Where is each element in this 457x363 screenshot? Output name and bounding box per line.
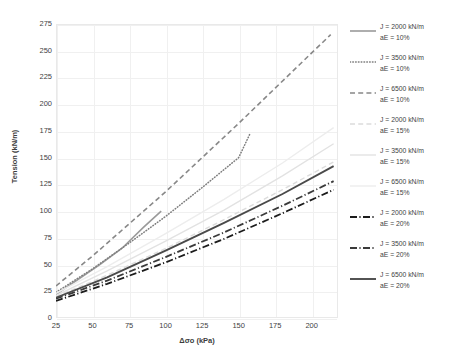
legend-label-line1: J = 2000 kN/m xyxy=(380,22,455,33)
legend-label-line2: aE = 15% xyxy=(380,126,455,137)
x-axis-ticks: 255075100125150175200 xyxy=(0,322,457,336)
x-tick-label: 125 xyxy=(182,322,222,330)
legend-swatch-icon xyxy=(350,182,376,190)
legend-swatch-icon xyxy=(350,213,376,221)
legend-label: J = 3500 kN/maE = 15% xyxy=(380,146,455,167)
y-tick-label: 75 xyxy=(4,234,52,242)
legend-label-line1: J = 6500 kN/m xyxy=(380,84,455,95)
series-line-1 xyxy=(56,133,250,292)
legend-swatch-icon xyxy=(350,89,376,97)
legend-label-line1: J = 2000 kN/m xyxy=(380,115,455,126)
legend-swatch-icon xyxy=(350,275,376,283)
series-line-3 xyxy=(56,162,334,297)
legend-swatch-icon xyxy=(350,58,376,66)
legend-label-line1: J = 6500 kN/m xyxy=(380,177,455,188)
legend-item-2[interactable]: J = 6500 kN/maE = 10% xyxy=(350,84,455,114)
legend-label: J = 6500 kN/maE = 20% xyxy=(380,270,455,291)
legend-label-line2: aE = 10% xyxy=(380,95,455,106)
y-axis-title: Tension (kN/m) xyxy=(10,97,19,217)
legend-item-6[interactable]: J = 2000 kN/maE = 20% xyxy=(350,208,455,238)
series-line-2 xyxy=(56,35,331,286)
x-tick-label: 175 xyxy=(255,322,295,330)
legend-label-line2: aE = 20% xyxy=(380,281,455,292)
legend-label: J = 3500 kN/maE = 20% xyxy=(380,239,455,260)
legend-label: J = 2000 kN/maE = 10% xyxy=(380,22,455,43)
legend-label-line1: J = 2000 kN/m xyxy=(380,208,455,219)
legend-label-line1: J = 3500 kN/m xyxy=(380,53,455,64)
x-axis-title: Δσo (kPa) xyxy=(56,336,338,345)
legend-item-4[interactable]: J = 3500 kN/maE = 15% xyxy=(350,146,455,176)
x-tick-label: 150 xyxy=(219,322,259,330)
legend-item-3[interactable]: J = 2000 kN/maE = 15% xyxy=(350,115,455,145)
chart-container: 0255075100125150175200225250275 25507510… xyxy=(0,0,457,363)
x-tick-label: 50 xyxy=(73,322,113,330)
legend-label-line2: aE = 10% xyxy=(380,33,455,44)
series-line-8 xyxy=(56,166,334,298)
legend-item-0[interactable]: J = 2000 kN/maE = 10% xyxy=(350,22,455,52)
legend-label-line1: J = 3500 kN/m xyxy=(380,146,455,157)
legend-label-line2: aE = 10% xyxy=(380,64,455,75)
legend-label-line2: aE = 20% xyxy=(380,250,455,261)
legend-item-5[interactable]: J = 6500 kN/maE = 15% xyxy=(350,177,455,207)
legend-label: J = 2000 kN/maE = 20% xyxy=(380,208,455,229)
chart-legend: J = 2000 kN/maE = 10%J = 3500 kN/maE = 1… xyxy=(350,22,455,301)
x-tick-label: 25 xyxy=(36,322,76,330)
legend-swatch-icon xyxy=(350,27,376,35)
legend-label-line1: J = 3500 kN/m xyxy=(380,239,455,250)
legend-label: J = 6500 kN/maE = 10% xyxy=(380,84,455,105)
x-tick-label: 200 xyxy=(292,322,332,330)
legend-item-8[interactable]: J = 6500 kN/maE = 20% xyxy=(350,270,455,300)
series-line-5 xyxy=(56,128,334,294)
y-tick-label: 250 xyxy=(4,47,52,55)
y-tick-label: 25 xyxy=(4,287,52,295)
legend-item-1[interactable]: J = 3500 kN/maE = 10% xyxy=(350,53,455,83)
gridline-horizontal xyxy=(57,319,337,320)
x-tick-label: 100 xyxy=(146,322,186,330)
x-tick-label: 75 xyxy=(109,322,149,330)
legend-swatch-icon xyxy=(350,151,376,159)
legend-label-line2: aE = 20% xyxy=(380,219,455,230)
legend-label: J = 3500 kN/maE = 10% xyxy=(380,53,455,74)
legend-item-7[interactable]: J = 3500 kN/maE = 20% xyxy=(350,239,455,269)
y-tick-label: 225 xyxy=(4,73,52,81)
series-line-4 xyxy=(56,144,334,296)
legend-label: J = 2000 kN/maE = 15% xyxy=(380,115,455,136)
series-lines xyxy=(56,24,338,318)
legend-label-line2: aE = 15% xyxy=(380,157,455,168)
legend-label: J = 6500 kN/maE = 15% xyxy=(380,177,455,198)
y-tick-label: 275 xyxy=(4,20,52,28)
legend-label-line2: aE = 15% xyxy=(380,188,455,199)
legend-swatch-icon xyxy=(350,244,376,252)
y-axis-ticks: 0255075100125150175200225250275 xyxy=(0,0,52,363)
y-tick-label: 50 xyxy=(4,261,52,269)
legend-label-line1: J = 6500 kN/m xyxy=(380,270,455,281)
legend-swatch-icon xyxy=(350,120,376,128)
y-tick-label: 0 xyxy=(4,314,52,322)
